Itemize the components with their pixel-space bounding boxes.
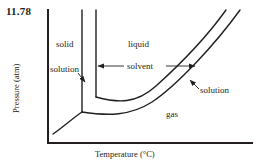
x-axis-title: Temperature (°C) <box>95 150 155 159</box>
annotation-label-solvent: solvent <box>127 62 153 71</box>
region-label-liquid: liquid <box>128 40 149 49</box>
region-label-gas: gas <box>166 110 178 119</box>
y-axis-title: Pressure (atm) <box>12 49 21 127</box>
phase-diagram-canvas <box>0 0 257 165</box>
solution-right-leader <box>190 80 199 89</box>
phase-diagram-figure: 11.78 solid liquid solution solvent solu… <box>0 0 257 165</box>
annotation-label-solution-left: solution <box>50 65 79 74</box>
sublimation-curve <box>53 112 82 134</box>
problem-number: 11.78 <box>6 6 31 17</box>
phase-boundaries <box>53 10 240 134</box>
axis-lines <box>48 10 252 143</box>
region-label-solid: solid <box>56 40 74 49</box>
annotation-label-solution-right: solution <box>200 86 229 95</box>
